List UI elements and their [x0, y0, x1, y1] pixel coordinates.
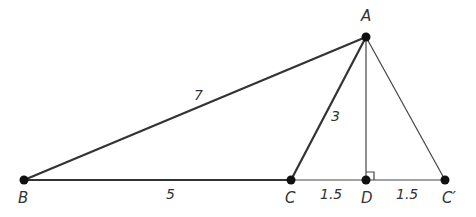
label-D: D — [361, 189, 373, 207]
length-BC: 5 — [166, 186, 175, 202]
segment-BA — [24, 37, 366, 180]
length-BA: 7 — [194, 87, 203, 103]
point-A — [362, 33, 371, 42]
segment-CA — [291, 37, 366, 180]
segment-ACp — [366, 37, 445, 180]
length-CA: 3 — [331, 108, 340, 124]
triangle-diagram: A B C D C′ 7 5 3 1.5 1.5 — [0, 0, 476, 217]
label-Cp: C′ — [442, 189, 456, 207]
label-A: A — [360, 7, 371, 25]
point-D — [362, 176, 371, 185]
label-C: C — [285, 189, 296, 207]
length-DCp: 1.5 — [396, 186, 418, 202]
point-B — [20, 176, 29, 185]
point-Cp — [441, 176, 450, 185]
label-B: B — [18, 189, 28, 207]
length-CD: 1.5 — [320, 186, 342, 202]
point-C — [287, 176, 296, 185]
